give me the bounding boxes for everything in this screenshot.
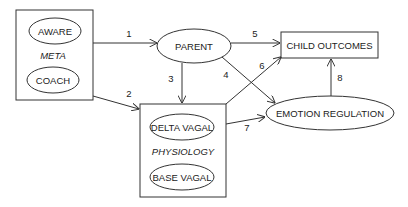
edge-2 [93, 96, 139, 109]
edge-3-label: 3 [168, 73, 173, 84]
parent-label: PARENT [175, 41, 213, 52]
edge-2-label: 2 [126, 88, 131, 99]
edge-1-label: 1 [126, 28, 131, 39]
edge-6 [226, 57, 281, 104]
delta-vagal-label: DELTA VAGAL [151, 122, 213, 133]
coach-label: COACH [36, 75, 70, 86]
meta-label: META [40, 50, 66, 61]
physiology-group: DELTA VAGAL PHYSIOLOGY BASE VAGAL [140, 104, 226, 197]
aware-label: AWARE [38, 26, 72, 37]
path-diagram: AWARE META COACH DELTA VAGAL PHYSIOLOGY … [0, 0, 408, 207]
emotion-regulation-label: EMOTION REGULATION [276, 108, 384, 119]
base-vagal-label: BASE VAGAL [153, 172, 212, 183]
edge-8-label: 8 [337, 72, 342, 83]
edge-6-label: 6 [259, 60, 264, 71]
physiology-label: PHYSIOLOGY [152, 146, 215, 157]
edge-7-label: 7 [244, 122, 249, 133]
edge-4-label: 4 [223, 69, 228, 80]
edge-5-label: 5 [252, 28, 257, 39]
meta-group: AWARE META COACH [16, 10, 93, 100]
edge-4 [222, 57, 275, 103]
child-outcomes-label: CHILD OUTCOMES [286, 40, 372, 51]
